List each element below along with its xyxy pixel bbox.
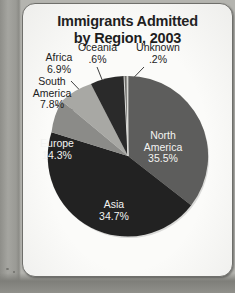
pie-label-africa-value: 6.9% <box>31 64 87 76</box>
pie-label-north-america-value: 35.5% <box>127 153 199 165</box>
pie-label-oceania-value: .6% <box>69 54 126 66</box>
pie-label-north-america-line-1: North <box>150 129 176 141</box>
pie-label-asia-value: 34.7% <box>81 211 147 223</box>
scanned-page: Immigrants Admitted by Region, 2003 <box>0 0 235 293</box>
pie-label-north-america-line-2: America <box>144 141 183 153</box>
pie-label-unknown-name: Unknown <box>136 41 180 53</box>
pie-label-south-america-line-1: South <box>38 75 65 87</box>
chart-card: Immigrants Admitted by Region, 2003 <box>22 3 233 277</box>
scan-speck <box>6 268 9 270</box>
pie-label-south-america-value: 7.8% <box>22 99 87 111</box>
pie-label-oceania: Oceania .6% <box>69 42 126 65</box>
pie-label-unknown-value: .2% <box>127 54 189 66</box>
pie-label-oceania-name: Oceania <box>78 41 117 53</box>
pie-label-asia-name: Asia <box>104 198 124 210</box>
pie-label-unknown: Unknown .2% <box>127 42 189 65</box>
pie-label-north-america: North America 35.5% <box>127 130 199 165</box>
pie-chart: Africa 6.9% South America 7.8% Oceania .… <box>23 4 232 276</box>
pie-label-south-america: South America 7.8% <box>22 76 87 111</box>
pie-label-europe-name: Europe <box>40 137 74 149</box>
pie-label-europe-value: 14.3% <box>26 150 88 162</box>
scan-speck <box>13 271 15 273</box>
pie-label-asia: Asia 34.7% <box>81 199 147 222</box>
pie-label-europe: Europe 14.3% <box>26 138 88 161</box>
pie-label-south-america-line-2: America <box>33 87 72 99</box>
